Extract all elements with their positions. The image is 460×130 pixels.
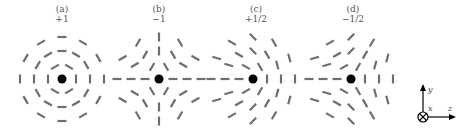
panel-a-label: (a) +1 xyxy=(42,4,82,24)
director-rod xyxy=(356,87,361,95)
director-rod xyxy=(250,104,256,110)
defect-core xyxy=(249,75,258,84)
director-rod xyxy=(250,118,256,124)
director-rod xyxy=(84,61,89,69)
director-rod xyxy=(322,64,331,66)
director-rod xyxy=(310,99,319,101)
director-rod xyxy=(179,63,187,68)
director-rod xyxy=(348,34,354,40)
director-rod xyxy=(258,87,263,95)
director-rod xyxy=(150,87,155,95)
director-rod xyxy=(276,89,278,98)
director-rod xyxy=(178,112,183,120)
y-arrowhead-icon xyxy=(420,84,426,91)
director-rod xyxy=(79,40,87,45)
director-rod xyxy=(44,53,52,58)
director-rod xyxy=(171,99,176,107)
director-rod xyxy=(164,87,169,95)
director-rod xyxy=(65,89,73,94)
director-rod xyxy=(224,92,233,94)
director-rod xyxy=(119,56,127,61)
director-rod xyxy=(340,89,348,94)
director-rod xyxy=(310,57,319,59)
director-rod xyxy=(326,113,334,118)
director-rod xyxy=(386,54,388,63)
defect-core xyxy=(155,75,164,84)
director-rod xyxy=(96,96,101,104)
director-rod xyxy=(51,65,59,70)
director-rod xyxy=(288,96,290,105)
director-rod xyxy=(348,104,354,110)
director-rod xyxy=(37,113,45,118)
director-rod xyxy=(72,53,80,58)
z-arrowhead-icon xyxy=(449,114,456,120)
director-rod xyxy=(340,65,348,70)
director-rod xyxy=(136,112,141,120)
director-rod xyxy=(131,91,139,96)
director-rod xyxy=(370,112,375,120)
director-rod xyxy=(235,101,243,106)
panel-b xyxy=(113,33,206,126)
director-rod xyxy=(250,34,256,40)
director-rod xyxy=(96,54,101,62)
director-rod xyxy=(348,48,354,54)
director-rod xyxy=(119,98,127,103)
director-rod xyxy=(288,54,290,63)
defect-core xyxy=(58,75,67,84)
director-rod xyxy=(348,118,354,124)
director-rod xyxy=(192,56,200,61)
director-rod xyxy=(235,53,243,58)
director-rod xyxy=(143,51,148,59)
panel-c-label: (c) +1/2 xyxy=(236,4,276,24)
director-rod xyxy=(326,40,334,45)
director-rod xyxy=(374,89,376,98)
director-rod xyxy=(250,48,256,54)
director-rod xyxy=(386,96,388,105)
director-rod xyxy=(242,89,250,94)
panel-d xyxy=(305,34,394,124)
director-rod xyxy=(178,39,183,47)
director-rod xyxy=(84,89,89,97)
panel-a xyxy=(20,37,104,121)
director-rod xyxy=(212,57,221,59)
director-rod xyxy=(136,39,141,47)
director-rod xyxy=(44,101,52,106)
director-rod xyxy=(258,63,263,71)
director-rod xyxy=(356,63,361,71)
axis-triad: y x z xyxy=(418,84,456,122)
director-rod xyxy=(72,101,80,106)
director-rod xyxy=(36,89,41,97)
director-rod xyxy=(150,63,155,71)
director-rod xyxy=(370,39,375,47)
panel-d-label: (d) −1/2 xyxy=(333,4,373,24)
director-rod xyxy=(363,51,368,59)
director-rod xyxy=(131,63,139,68)
director-rod xyxy=(242,65,250,70)
x-axis-label: x xyxy=(428,104,433,113)
director-rod xyxy=(322,92,331,94)
director-rod xyxy=(212,99,221,101)
director-rod xyxy=(143,99,148,107)
director-rod xyxy=(272,112,277,120)
director-rod xyxy=(228,40,236,45)
director-rod xyxy=(265,51,270,59)
director-rod xyxy=(37,40,45,45)
director-rod xyxy=(333,53,341,58)
director-rod xyxy=(228,113,236,118)
director-rod xyxy=(79,113,87,118)
director-rod xyxy=(164,63,169,71)
panel-c xyxy=(207,34,296,124)
director-rod xyxy=(171,51,176,59)
director-rod xyxy=(363,99,368,107)
panel-b-label: (b) −1 xyxy=(139,4,179,24)
z-axis-label: z xyxy=(447,104,453,113)
director-rod xyxy=(23,54,28,62)
director-rod xyxy=(23,96,28,104)
director-rod xyxy=(224,64,233,66)
director-rod xyxy=(36,61,41,69)
director-rod xyxy=(333,101,341,106)
director-rod xyxy=(179,91,187,96)
director-rod xyxy=(192,98,200,103)
director-rod xyxy=(265,99,270,107)
director-rod xyxy=(374,61,376,70)
